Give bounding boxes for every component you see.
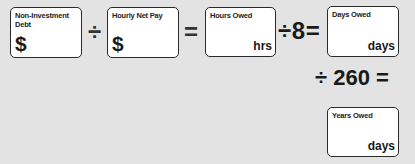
divide-by-260-operator: ÷ 260 = xyxy=(315,67,389,89)
unit-label: days xyxy=(368,40,395,53)
box-label: Hourly Net Pay xyxy=(112,11,163,20)
unit-label: days xyxy=(368,140,395,153)
box-label: Hours Owed xyxy=(210,11,252,20)
years-owed-box[interactable]: Years Owed days xyxy=(327,107,399,157)
dollar-sign: $ xyxy=(15,33,27,55)
equals-operator: = xyxy=(184,20,198,44)
box-label: Years Owed xyxy=(332,111,373,120)
divide-by-8-operator: ÷ 8 = xyxy=(278,19,317,43)
dollar-sign: $ xyxy=(112,33,124,55)
box-label: Days Owed xyxy=(332,10,371,19)
non-investment-debt-box[interactable]: Non-Investment Debt $ xyxy=(10,7,82,58)
box-label: Non-Investment Debt xyxy=(15,11,69,29)
hourly-net-pay-box[interactable]: Hourly Net Pay $ xyxy=(107,7,179,58)
days-owed-box[interactable]: Days Owed days xyxy=(327,6,399,57)
unit-label: hrs xyxy=(253,40,272,53)
divide-operator: ÷ xyxy=(88,20,101,44)
hours-owed-box[interactable]: Hours Owed hrs xyxy=(205,7,276,57)
